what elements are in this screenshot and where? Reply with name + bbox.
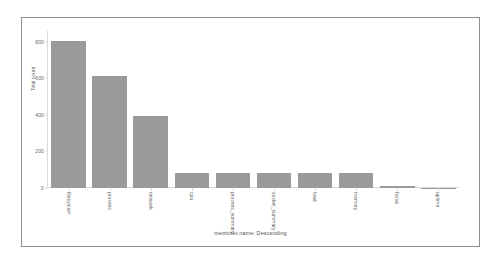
bar-group[interactable]: load <box>295 31 336 188</box>
bar[interactable] <box>51 41 86 188</box>
x-tick-label: process_summary <box>230 192 236 234</box>
x-tick-mark <box>356 188 357 191</box>
y-tick-label: 0 <box>41 185 44 191</box>
x-tick-label: filesystem <box>66 192 72 215</box>
bar-group[interactable]: process <box>89 31 130 188</box>
x-tick-label: socket_summary <box>271 192 277 231</box>
plot-area: 0200400600800 filesystemprocessnetworkcp… <box>48 31 459 188</box>
x-axis-title: metricset.name: Descending <box>22 230 479 236</box>
x-tick-mark <box>233 188 234 191</box>
bar[interactable] <box>175 173 210 188</box>
x-tick-label: cpu <box>189 192 195 200</box>
x-tick-label: uptime <box>435 192 441 207</box>
bar[interactable] <box>133 116 168 188</box>
x-tick-label: network <box>148 192 154 210</box>
x-tick-label: load <box>312 192 318 202</box>
y-tick-label: 600 <box>35 75 44 81</box>
x-tick-label: memory <box>353 192 359 210</box>
chart-panel: Total count 0200400600800 filesystemproc… <box>21 17 480 247</box>
bar-group[interactable]: memory <box>336 31 377 188</box>
bar[interactable] <box>298 173 333 188</box>
bar[interactable] <box>216 173 251 188</box>
x-tick-mark <box>69 188 70 191</box>
x-tick-mark <box>274 188 275 191</box>
x-tick-mark <box>192 188 193 191</box>
x-tick-mark <box>151 188 152 191</box>
y-tick-label: 800 <box>35 39 44 45</box>
x-tick-mark <box>438 188 439 191</box>
y-tick-label: 200 <box>35 148 44 154</box>
x-tick-mark <box>397 188 398 191</box>
x-tick-mark <box>315 188 316 191</box>
bar[interactable] <box>339 173 374 188</box>
bar[interactable] <box>92 76 127 188</box>
x-tick-label: process <box>107 192 113 210</box>
y-tick-label: 400 <box>35 112 44 118</box>
bar-group[interactable]: socket_summary <box>254 31 295 188</box>
x-tick-mark <box>110 188 111 191</box>
bar[interactable] <box>257 173 292 188</box>
x-tick-label: fsstat <box>394 192 400 204</box>
bar-group[interactable]: network <box>130 31 171 188</box>
bar-group[interactable]: fsstat <box>377 31 418 188</box>
bar-group[interactable]: filesystem <box>48 31 89 188</box>
bar-group[interactable]: cpu <box>171 31 212 188</box>
bar-group[interactable]: process_summary <box>212 31 253 188</box>
bar-group[interactable]: uptime <box>418 31 459 188</box>
